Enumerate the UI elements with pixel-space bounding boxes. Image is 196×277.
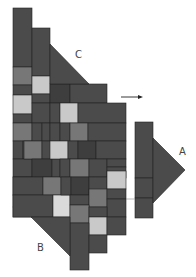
patch	[52, 159, 60, 177]
patch	[50, 84, 70, 103]
patch	[32, 159, 52, 177]
strip-patch	[135, 198, 153, 218]
patch	[107, 171, 126, 189]
patch	[13, 85, 32, 95]
triangle-c	[50, 44, 89, 84]
patch	[53, 195, 70, 217]
arrow-head-icon	[138, 95, 143, 99]
patch	[96, 141, 126, 159]
patch	[50, 123, 60, 141]
patch	[107, 159, 126, 167]
label-c: C	[75, 49, 82, 60]
patch	[50, 103, 60, 123]
strip-patch	[135, 178, 153, 198]
label-b: B	[37, 242, 44, 253]
patch	[107, 199, 126, 217]
side-strip-a	[135, 122, 185, 218]
patch	[13, 8, 32, 67]
patch	[107, 217, 126, 235]
patch	[24, 141, 42, 159]
patch	[70, 205, 89, 223]
patch	[68, 141, 78, 159]
patch	[32, 28, 50, 76]
patch	[32, 94, 50, 103]
patch	[13, 95, 32, 114]
direction-arrow	[121, 95, 143, 99]
patch	[13, 141, 23, 159]
patch	[32, 76, 50, 94]
patch	[70, 223, 89, 270]
patch	[13, 159, 32, 177]
patch	[13, 123, 32, 141]
patch	[89, 235, 107, 253]
patch	[60, 159, 70, 177]
patch	[70, 84, 107, 103]
patch	[70, 159, 89, 177]
patch	[89, 159, 107, 177]
patch	[78, 141, 96, 159]
patch	[88, 123, 126, 141]
patch	[60, 123, 70, 141]
patch	[89, 189, 107, 207]
label-a: A	[179, 146, 186, 157]
patch	[43, 177, 61, 195]
patch	[42, 123, 50, 141]
patch	[61, 177, 71, 195]
patch	[89, 217, 107, 235]
patch	[13, 67, 32, 85]
patch	[78, 103, 126, 123]
patch	[32, 123, 42, 141]
patch	[70, 123, 88, 141]
patch	[70, 195, 89, 205]
patch	[89, 207, 107, 217]
patch	[13, 177, 43, 195]
patch	[13, 195, 53, 217]
strip-patch	[135, 122, 153, 178]
patch	[107, 189, 126, 199]
patch	[50, 141, 68, 159]
quilt-assembly-diagram: C A B	[0, 0, 196, 277]
patch	[71, 177, 89, 195]
patch	[60, 103, 78, 123]
patch	[13, 114, 32, 123]
patch	[32, 103, 50, 123]
